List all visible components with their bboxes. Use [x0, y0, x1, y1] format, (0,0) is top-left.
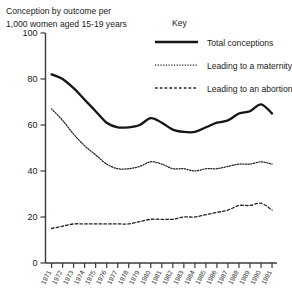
y-tick-label: 80	[27, 74, 37, 84]
legend-item-total-conceptions: Total conceptions	[155, 38, 273, 48]
x-axis-ticks	[52, 263, 272, 268]
y-tick-label: 20	[27, 212, 37, 222]
legend-label-total-conceptions: Total conceptions	[207, 38, 273, 48]
chart-container: Conception by outcome per 1,000 women ag…	[0, 0, 292, 302]
y-tick-label: 0	[32, 258, 37, 268]
series-line-abortion	[52, 203, 272, 228]
x-tick-label: 1991	[260, 269, 273, 286]
legend-item-maternity: Leading to a maternity	[155, 61, 292, 71]
legend: Total conceptions Leading to a maternity…	[155, 38, 292, 94]
legend-title: Key	[172, 18, 188, 28]
y-tick-label: 100	[22, 28, 37, 38]
series-line-maternity	[52, 109, 272, 171]
legend-item-abortion: Leading to an abortion	[155, 84, 292, 94]
y-tick-label: 40	[27, 166, 37, 176]
x-axis-tick-labels: 1971197219731974197519761977197819791980…	[39, 269, 273, 286]
y-axis-ticks: 020406080100	[22, 28, 45, 268]
conception-outcome-line-chart: Conception by outcome per 1,000 women ag…	[0, 0, 292, 302]
legend-label-abortion: Leading to an abortion	[207, 84, 292, 94]
legend-label-maternity: Leading to a maternity	[207, 61, 292, 71]
y-tick-label: 60	[27, 120, 37, 130]
chart-title-line-1: Conception by outcome per	[6, 6, 111, 16]
